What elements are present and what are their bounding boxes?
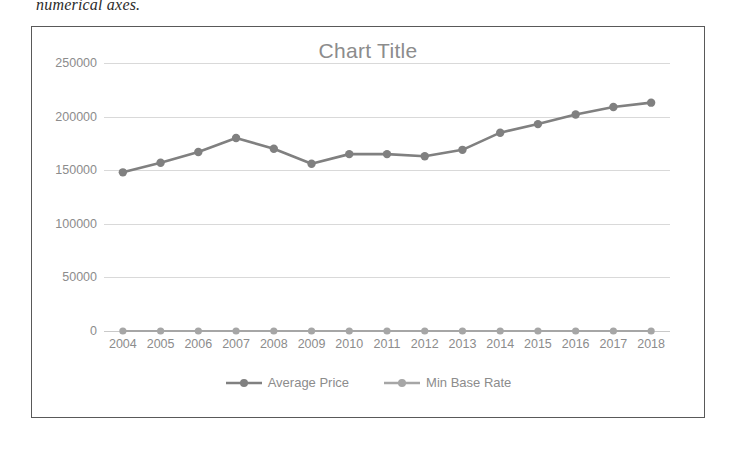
data-point-marker bbox=[534, 120, 542, 128]
x-axis-tick-label: 2010 bbox=[335, 337, 363, 351]
chart-title: Chart Title bbox=[32, 39, 704, 63]
x-axis-tick-label: 2013 bbox=[449, 337, 477, 351]
legend-label: Min Base Rate bbox=[426, 375, 511, 390]
legend-marker-icon bbox=[225, 377, 263, 389]
legend-item[interactable]: Average Price bbox=[225, 375, 349, 390]
x-axis-tick-label: 2015 bbox=[524, 337, 552, 351]
data-point-marker bbox=[232, 134, 240, 142]
data-point-marker bbox=[458, 146, 466, 154]
chart-legend: Average PriceMin Base Rate bbox=[32, 375, 704, 390]
x-axis-tick-label: 2016 bbox=[562, 337, 590, 351]
x-axis-tick-label: 2012 bbox=[411, 337, 439, 351]
x-axis-tick-label: 2006 bbox=[184, 337, 212, 351]
data-point-marker bbox=[195, 327, 202, 334]
data-point-marker bbox=[157, 327, 164, 334]
data-point-marker bbox=[648, 327, 655, 334]
legend-label: Average Price bbox=[268, 375, 349, 390]
data-point-marker bbox=[308, 327, 315, 334]
plot-area: 250000200000150000100000500000 bbox=[104, 63, 670, 331]
x-axis-tick-labels: 2004200520062007200820092010201120122013… bbox=[104, 337, 670, 355]
data-point-marker bbox=[119, 327, 126, 334]
y-axis-tick-label: 0 bbox=[90, 324, 97, 338]
x-axis-tick-label: 2017 bbox=[599, 337, 627, 351]
data-point-marker bbox=[572, 327, 579, 334]
data-point-marker bbox=[232, 327, 239, 334]
data-point-marker bbox=[496, 128, 504, 136]
x-axis-tick-label: 2011 bbox=[374, 337, 401, 351]
data-point-marker bbox=[421, 152, 429, 160]
x-axis-tick-label: 2005 bbox=[147, 337, 175, 351]
data-point-marker bbox=[194, 148, 202, 156]
data-point-marker bbox=[345, 150, 353, 158]
data-point-marker bbox=[459, 327, 466, 334]
data-point-marker bbox=[497, 327, 504, 334]
document-body-text: numerical axes. bbox=[36, 0, 436, 16]
y-axis-tick-label: 50000 bbox=[62, 270, 97, 284]
x-axis-tick-label: 2007 bbox=[222, 337, 250, 351]
data-point-marker bbox=[571, 110, 579, 118]
x-axis-tick-label: 2009 bbox=[298, 337, 326, 351]
x-axis-tick-label: 2014 bbox=[486, 337, 514, 351]
x-axis-tick-label: 2008 bbox=[260, 337, 288, 351]
data-point-marker bbox=[156, 158, 164, 166]
y-axis-tick-label: 150000 bbox=[55, 163, 97, 177]
data-point-marker bbox=[534, 327, 541, 334]
data-point-marker bbox=[647, 98, 655, 106]
y-axis-tick-label: 250000 bbox=[55, 56, 97, 70]
legend-item[interactable]: Min Base Rate bbox=[383, 375, 511, 390]
data-point-marker bbox=[610, 327, 617, 334]
data-point-marker bbox=[609, 103, 617, 111]
x-axis-tick-label: 2018 bbox=[637, 337, 665, 351]
series-plot bbox=[104, 63, 670, 331]
data-point-marker bbox=[346, 327, 353, 334]
data-point-marker bbox=[270, 145, 278, 153]
data-point-marker bbox=[421, 327, 428, 334]
data-point-marker bbox=[307, 160, 315, 168]
data-point-marker bbox=[119, 168, 127, 176]
y-axis-tick-label: 100000 bbox=[55, 217, 97, 231]
legend-marker-icon bbox=[383, 377, 421, 389]
data-point-marker bbox=[383, 150, 391, 158]
y-axis-tick-label: 200000 bbox=[55, 110, 97, 124]
chart-frame: Chart Title 2500002000001500001000005000… bbox=[31, 26, 705, 418]
x-axis-tick-label: 2004 bbox=[109, 337, 137, 351]
data-point-marker bbox=[383, 327, 390, 334]
data-point-marker bbox=[270, 327, 277, 334]
